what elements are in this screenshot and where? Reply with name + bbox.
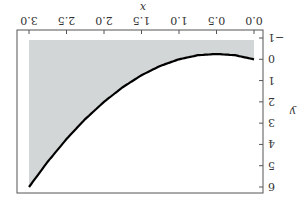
- x-tick-label: 3.0: [20, 14, 38, 27]
- y-tick-label: 5: [268, 159, 275, 172]
- chart: 0.00.51.01.52.02.53.0 −10123456 x y: [0, 0, 303, 206]
- shaded-region: [29, 40, 254, 187]
- x-tick-label: 2.5: [58, 14, 76, 27]
- y-tick-label: 4: [268, 137, 275, 150]
- y-tick-label: 3: [268, 116, 275, 129]
- x-tick-label: 0.5: [208, 14, 226, 27]
- x-tick-label: 1.0: [170, 14, 188, 27]
- y-axis-label: y: [289, 105, 297, 118]
- y-tick-label: 1: [268, 74, 275, 87]
- x-axis-label: x: [139, 1, 146, 14]
- x-tick-label: 2.0: [95, 14, 113, 27]
- y-tick-label: 2: [268, 95, 275, 108]
- plot-svg: 0.00.51.01.52.02.53.0 −10123456 x y: [0, 0, 303, 206]
- y-tick-label: 0: [268, 52, 275, 65]
- x-tick-label: 1.5: [133, 14, 151, 27]
- y-tick-label: −1: [268, 31, 284, 44]
- y-tick-label: 6: [268, 180, 275, 193]
- x-tick-label: 0.0: [245, 14, 263, 27]
- x-axis: 0.00.51.01.52.02.53.0: [20, 14, 263, 34]
